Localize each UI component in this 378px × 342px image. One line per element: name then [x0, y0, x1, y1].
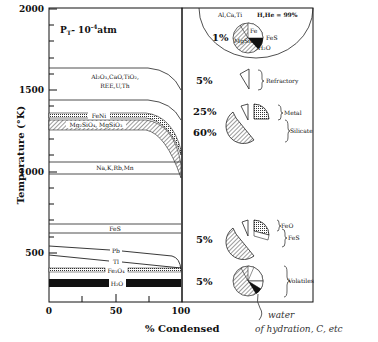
refractory-brace [258, 70, 264, 90]
refractory-band-label-1: Al₂O₃,CaO,TiO₂, [90, 73, 139, 80]
y-tick-1500: 1500 [19, 85, 44, 95]
volatiles-percent: 5% [196, 276, 213, 287]
x-axis-ticks [82, 294, 149, 302]
top-percent: 1% [212, 32, 229, 43]
y-tick-500: 500 [25, 248, 44, 258]
y-axis-ticks [49, 9, 57, 286]
fe-label: Fe [250, 27, 258, 34]
h2o-pie-label: H₂O [258, 44, 271, 51]
pb-label: Pb [112, 247, 120, 254]
h2o-band-left [49, 279, 109, 287]
refractory-wedge [240, 69, 249, 89]
y-axis-title: Temperature (°K) [15, 106, 26, 205]
fe-refractory-wedge [242, 220, 248, 236]
fe3o4-band-left [49, 268, 105, 272]
metal-brace [278, 105, 283, 120]
fe-percent: 5% [196, 234, 213, 245]
alkali-label: Na,K,Rb,Mn [96, 164, 134, 171]
alcati-label: Al,Ca,Ti [217, 11, 242, 18]
h2o-label: H₂O [111, 280, 124, 287]
feo-label: FeO [281, 222, 293, 229]
silicate-percent: 60% [193, 127, 217, 138]
pressure-label: PT- 10-4atm [60, 23, 117, 36]
x-axis-title: % Condensed [145, 323, 220, 334]
volatiles-label: Volatiles [287, 277, 314, 284]
x-tick-50: 50 [110, 306, 123, 316]
fe3o4-label: Fe₃O₄ [107, 267, 125, 274]
fes-pie-label: FeS [266, 34, 278, 41]
metal-percent: 25% [193, 106, 217, 117]
note-arrow [257, 294, 261, 320]
handwritten-note-2: of hydration, C, etc [255, 324, 343, 334]
handwritten-note-1: water [268, 310, 295, 320]
metal-label: Metal [284, 109, 302, 116]
fes-brace [282, 229, 287, 247]
hhe-label: H,He = 99% [257, 11, 298, 18]
metal-wedge [254, 104, 269, 119]
refractory-percent: 5% [196, 75, 213, 86]
fes-group-label: FeS [288, 234, 300, 241]
condensation-chart: 2000 1500 1000 500 0 50 100 % Condensed … [0, 0, 378, 342]
fes-label: FeS [109, 225, 121, 232]
x-tick-100: 100 [172, 306, 191, 316]
mgsio-label: MgSiO [234, 37, 255, 45]
feni-label: FeNi [92, 112, 107, 119]
x-tick-0: 0 [46, 306, 52, 316]
fe3o4-band-right [128, 268, 181, 272]
refractory-band-label-2: REE,U,Th [100, 82, 130, 89]
metal-refractory-wedge [241, 104, 248, 120]
silicate-wedge [226, 112, 254, 144]
fe-silicate-wedge [226, 228, 254, 260]
tl-label: Tl [113, 258, 119, 265]
silicate-label: Mg₂SiO₄, MgSiO₃ [70, 121, 123, 129]
h2o-band-right [126, 279, 181, 287]
silicate-group-label: Silicate [290, 127, 313, 134]
refractory-label: Refractory [266, 77, 299, 85]
volatiles-pie [233, 266, 263, 296]
y-tick-2000: 2000 [19, 4, 44, 14]
